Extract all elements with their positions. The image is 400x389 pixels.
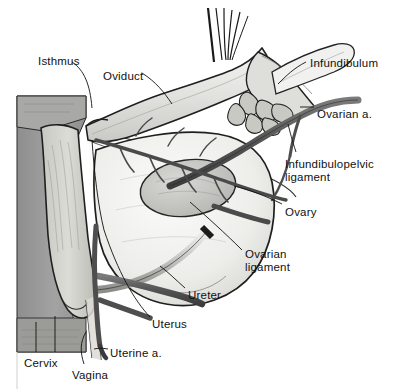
label-isthmus: Isthmus bbox=[38, 55, 80, 68]
label-ovarian-artery: Ovarian a. bbox=[317, 108, 372, 121]
label-ovarian-ligament: Ovarian ligament bbox=[245, 248, 290, 273]
label-infundibulopelvic-ligament: Infundibulopelvic ligament bbox=[285, 158, 374, 183]
label-vagina: Vagina bbox=[72, 369, 108, 382]
label-uterus: Uterus bbox=[152, 318, 187, 331]
label-ureter: Ureter bbox=[188, 289, 221, 302]
label-infundibulum: Infundibulum bbox=[310, 57, 378, 70]
label-cervix: Cervix bbox=[24, 357, 58, 370]
label-uterine-artery: Uterine a. bbox=[110, 347, 162, 360]
label-ovary: Ovary bbox=[285, 206, 317, 219]
anatomy-figure: Isthmus Oviduct Infundibulum Ovarian a. … bbox=[0, 0, 400, 389]
label-oviduct: Oviduct bbox=[103, 70, 143, 83]
